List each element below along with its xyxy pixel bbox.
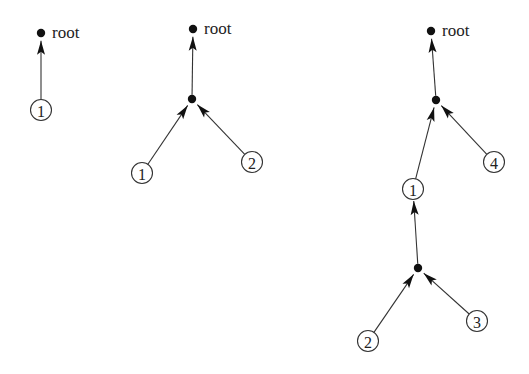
edge-arrow — [37, 41, 45, 100]
leaf-label: 1 — [37, 103, 45, 120]
leaf-node-1: 1 — [403, 179, 424, 200]
edge-arrow — [429, 39, 437, 96]
leaf-label: 4 — [490, 155, 498, 172]
leaf-node-4: 4 — [484, 152, 505, 173]
node-dot-icon — [432, 96, 440, 104]
edge-arrow — [416, 107, 435, 178]
leaf-label: 2 — [364, 334, 372, 351]
leaf-node-2: 2 — [358, 331, 379, 352]
tree-2: root12 — [132, 19, 263, 184]
edge-arrow — [189, 37, 197, 95]
root-node: root — [37, 23, 80, 42]
leaf-label: 3 — [473, 314, 481, 331]
tree-1: root1 — [31, 23, 80, 121]
leaf-label: 2 — [248, 155, 256, 172]
edge-arrow — [441, 106, 487, 155]
root-label: root — [204, 19, 232, 38]
internal-node — [432, 96, 440, 104]
leaf-label: 1 — [138, 166, 146, 183]
diagram-canvas: root1root12root1423 — [0, 0, 529, 374]
root-label: root — [52, 23, 80, 42]
arrowhead-icon — [402, 274, 413, 288]
node-dot-icon — [427, 27, 435, 35]
internal-node — [414, 264, 422, 272]
root-node: root — [427, 21, 470, 40]
edge-arrow — [411, 201, 419, 264]
edge-arrow — [424, 273, 469, 314]
tree-diagram: root1root12root1423 — [0, 0, 529, 374]
leaf-node-1: 1 — [31, 100, 52, 121]
leaf-label: 1 — [409, 182, 417, 199]
node-dot-icon — [189, 25, 197, 33]
root-node: root — [189, 19, 232, 38]
edge-arrow — [148, 105, 188, 164]
root-label: root — [442, 21, 470, 40]
internal-node — [188, 95, 196, 103]
tree-3: root1423 — [358, 21, 505, 352]
edge-arrow — [374, 274, 414, 332]
node-dot-icon — [37, 29, 45, 37]
leaf-node-3: 3 — [467, 311, 488, 332]
node-dot-icon — [414, 264, 422, 272]
arrowhead-icon — [177, 105, 188, 119]
leaf-node-1: 1 — [132, 163, 153, 184]
edge-arrow — [197, 105, 244, 155]
leaf-node-2: 2 — [242, 152, 263, 173]
node-dot-icon — [188, 95, 196, 103]
